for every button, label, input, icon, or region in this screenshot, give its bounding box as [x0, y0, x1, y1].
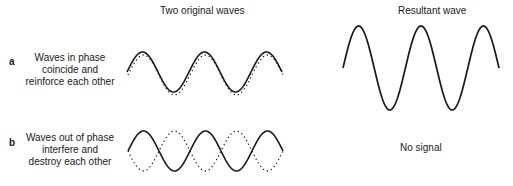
row-a-original-wave-dotted [128, 55, 283, 95]
row-b-original-wave-solid [128, 131, 283, 171]
waves-canvas [0, 0, 513, 186]
row-a-resultant-wave [343, 26, 499, 110]
row-a-original-wave-solid [127, 52, 282, 92]
